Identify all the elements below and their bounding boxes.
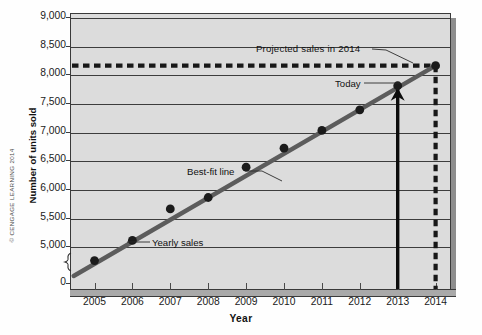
data-point	[280, 144, 289, 153]
data-point	[242, 163, 251, 172]
chart-data-overlay	[0, 0, 482, 335]
annotation-yearly-sales: Yearly sales	[152, 237, 203, 248]
chart-figure: © CENGAGE LEARNING 2014 Number of units …	[0, 0, 482, 335]
data-point	[204, 193, 213, 202]
data-point	[318, 126, 327, 135]
data-point	[166, 205, 175, 214]
annotation-best-fit-line: Best-fit line	[187, 166, 234, 177]
data-point	[355, 105, 364, 114]
annotation-today: Today	[335, 78, 361, 89]
data-point	[128, 236, 137, 245]
projected-data-point	[431, 61, 440, 70]
annotation-projected-sales: Projected sales in 2014	[256, 43, 360, 54]
data-point	[90, 256, 99, 265]
projected-leader-line	[372, 49, 413, 63]
